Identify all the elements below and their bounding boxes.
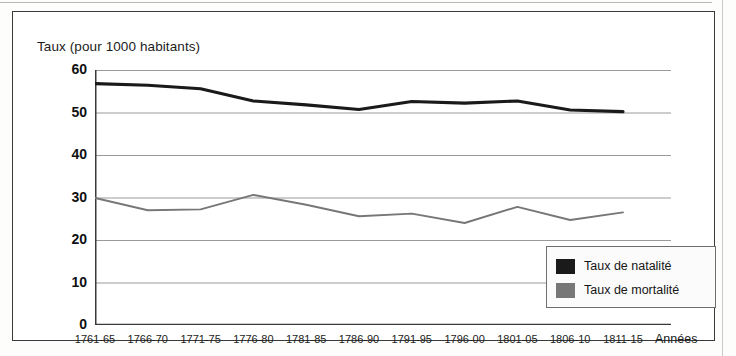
x-axis-tick-label: 1806-10 xyxy=(550,333,590,345)
y-axis-tick-label: 30 xyxy=(47,189,87,205)
page-top-rule xyxy=(0,2,712,3)
legend-item-mortalite: Taux de mortalité xyxy=(556,278,706,302)
legend-swatch-natalite xyxy=(556,259,575,274)
legend-label-natalite: Taux de natalité xyxy=(584,259,672,273)
x-axis-tick-label: 1781-85 xyxy=(286,333,326,345)
x-axis-tick-label: 1801-05 xyxy=(497,333,537,345)
legend-item-natalite: Taux de natalité xyxy=(556,254,706,278)
x-axis-tick-label: 1776-80 xyxy=(233,333,273,345)
x-axis-tick-label: 1791-95 xyxy=(392,333,432,345)
legend-swatch-mortalite xyxy=(556,283,575,298)
legend-label-mortalite: Taux de mortalité xyxy=(584,283,679,297)
y-axis-tick-label: 20 xyxy=(47,231,87,247)
x-axis-tick-label: 1766-70 xyxy=(128,333,168,345)
x-axis-tick-label: 1786-90 xyxy=(339,333,379,345)
series-line-mortalite xyxy=(95,195,623,223)
y-axis-tick-label: 0 xyxy=(47,316,87,332)
x-axis-tick-label: 1811-15 xyxy=(603,333,643,345)
x-axis-tick-label: 1771-75 xyxy=(180,333,220,345)
y-axis-tick-label: 50 xyxy=(47,104,87,120)
x-axis-tick-label: 1761-65 xyxy=(75,333,115,345)
chart-legend: Taux de natalité Taux de mortalité xyxy=(546,246,716,308)
x-axis-title: Années xyxy=(655,332,697,346)
figure-frame: Taux (pour 1000 habitants) 0102030405060… xyxy=(12,11,715,341)
y-axis-tick-label: 60 xyxy=(47,61,87,77)
scanned-page: Taux (pour 1000 habitants) 0102030405060… xyxy=(0,0,736,356)
y-axis-tick-label: 10 xyxy=(47,274,87,290)
y-axis-tick-label: 40 xyxy=(47,146,87,162)
series-line-natalite xyxy=(95,84,623,112)
x-axis-tick-label: 1796-00 xyxy=(444,333,484,345)
page-edge-rule xyxy=(722,0,723,356)
chart-title: Taux (pour 1000 habitants) xyxy=(37,39,200,54)
